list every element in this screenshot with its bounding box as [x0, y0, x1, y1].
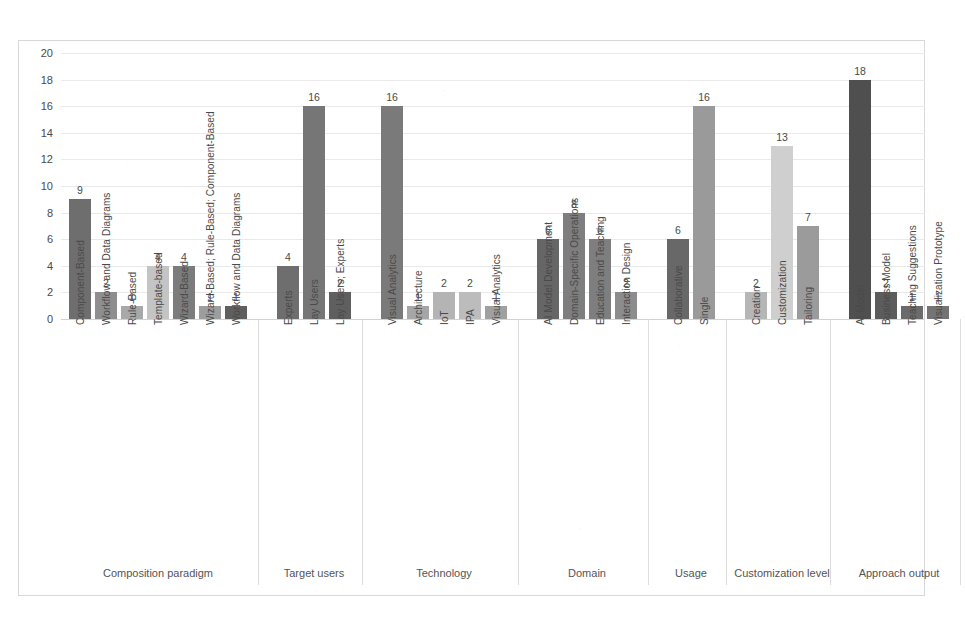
gridline: [61, 159, 925, 160]
bar-value-label: 4: [285, 251, 291, 263]
bar-category-label: Domain-Specific Operations: [569, 198, 580, 325]
bar: 6Education and Teaching: [589, 239, 611, 319]
bar: 4Experts: [277, 266, 299, 319]
group-title: Domain: [515, 567, 659, 581]
bar: 2IPA: [459, 292, 481, 319]
bar: 16Single: [693, 106, 715, 319]
bar-category-label: Wizard-Based: [179, 261, 190, 325]
bar-category-label: Collaborative: [673, 265, 684, 325]
y-axis-tick: 20: [41, 47, 53, 59]
group-title: Target users: [255, 567, 373, 581]
bar-category-label: Wizard-Based; Rule-Based; Component-Base…: [205, 111, 216, 325]
gridline: [61, 106, 925, 107]
bar: 1Wizard-Based; Rule-Based; Component-Bas…: [199, 306, 221, 319]
bar-category-label: Visual Analytics: [491, 254, 502, 325]
y-axis-tick: 8: [47, 207, 53, 219]
group-title: Customization level: [723, 567, 841, 581]
bar-value-label: 18: [854, 65, 866, 77]
bar-value-label: 16: [386, 91, 398, 103]
bar: 13Customization: [771, 146, 793, 319]
bar: 2Workflow and Data Diagrams: [95, 292, 117, 319]
bar: 2IoT: [433, 292, 455, 319]
group-separator: [648, 319, 649, 585]
bar: 18AI Model: [849, 80, 871, 319]
gridline: [61, 186, 925, 187]
bar-category-label: Lay Users; Experts: [335, 239, 346, 325]
bar-category-label: Single: [699, 297, 710, 325]
group-title: Composition paradigm: [47, 567, 269, 581]
bar-value-label: 7: [805, 211, 811, 223]
bar-value-label: 6: [675, 224, 681, 236]
bar-category-label: IPA: [465, 309, 476, 325]
bar: 2Business Model: [875, 292, 897, 319]
bar: 8Domain-Specific Operations: [563, 213, 585, 319]
bar-category-label: Tailoring: [803, 287, 814, 325]
bar: 2Lay Users; Experts: [329, 292, 351, 319]
bar-category-label: AI Model Development: [543, 222, 554, 325]
gridline: [61, 133, 925, 134]
bar-value-label: 9: [77, 184, 83, 196]
group-title: Approach output: [827, 567, 965, 581]
bar: 1Workflow and Data Diagrams: [225, 306, 247, 319]
bar-category-label: Education and Teaching: [595, 216, 606, 325]
bar-category-label: AI Model: [855, 285, 866, 325]
bar-category-label: Component-Based: [75, 240, 86, 325]
y-axis-tick: 18: [41, 74, 53, 86]
bar-category-label: Interaction Design: [621, 243, 632, 325]
group-separator: [362, 319, 363, 585]
bar-category-label: Lay Users: [309, 279, 320, 325]
bar: 1Visualization Prototype: [927, 306, 949, 319]
bar-category-label: Business Model: [881, 253, 892, 325]
bar-category-label: Teaching Suggestions: [907, 225, 918, 325]
group-separator: [960, 319, 961, 585]
bar: 1Teaching Suggestions: [901, 306, 923, 319]
bar-value-label: 16: [698, 91, 710, 103]
bar-category-label: Visual Analytics: [387, 254, 398, 325]
y-axis-tick: 14: [41, 127, 53, 139]
bar-category-label: Visualization Prototype: [933, 221, 944, 325]
gridline: [61, 213, 925, 214]
y-axis-tick: 6: [47, 233, 53, 245]
bar-category-label: Experts: [283, 290, 294, 325]
y-axis-tick: 4: [47, 260, 53, 272]
bar: 2Interaction Design: [615, 292, 637, 319]
gridline: [61, 53, 925, 54]
group-title: Technology: [359, 567, 529, 581]
bar-value-label: 2: [467, 277, 473, 289]
bar-category-label: IoT: [439, 310, 450, 325]
bar-category-label: Creation: [751, 286, 762, 325]
bar: 1Rule-Based: [121, 306, 143, 319]
y-axis-tick: 12: [41, 153, 53, 165]
bar-category-label: Template-based: [153, 252, 164, 325]
bar: 16Visual Analytics: [381, 106, 403, 319]
chart-figure: 02468101214161820 9Component-Based2Workf…: [18, 40, 925, 596]
bar: 6Collaborative: [667, 239, 689, 319]
y-axis-tick: 10: [41, 180, 53, 192]
bar-value-label: 2: [441, 277, 447, 289]
bar: 4Wizard-Based: [173, 266, 195, 319]
plot-area: 02468101214161820 9Component-Based2Workf…: [61, 53, 925, 319]
bar: 1Architecture: [407, 306, 429, 319]
bar: 6AI Model Development: [537, 239, 559, 319]
group-separator: [726, 319, 727, 585]
group-separator: [830, 319, 831, 585]
bar: 9Component-Based: [69, 199, 91, 319]
y-axis-tick: 2: [47, 286, 53, 298]
bar: 16Lay Users: [303, 106, 325, 319]
bar-category-label: Workflow and Data Diagrams: [231, 193, 242, 325]
bar-category-label: Rule-Based: [127, 272, 138, 325]
y-axis-tick: 16: [41, 100, 53, 112]
bar: 4Template-based: [147, 266, 169, 319]
bar-value-label: 13: [776, 131, 788, 143]
bar-category-label: Workflow and Data Diagrams: [101, 193, 112, 325]
bar: 2Creation: [745, 292, 767, 319]
bar: 7Tailoring: [797, 226, 819, 319]
bar-value-label: 16: [308, 91, 320, 103]
group-separator: [518, 319, 519, 585]
bar-category-label: Architecture: [413, 270, 424, 325]
gridline: [61, 239, 925, 240]
bar: 1Visual Analytics: [485, 306, 507, 319]
y-axis-tick: 0: [47, 313, 53, 325]
group-separator: [258, 319, 259, 585]
bar-category-label: Customization: [777, 260, 788, 325]
